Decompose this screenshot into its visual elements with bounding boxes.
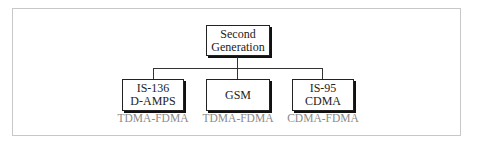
node-gsm: GSM [206,79,270,111]
access-label-2: TDMA-FDMA [193,112,283,124]
root-line-1: Second [220,28,255,41]
node-3-line-2: CDMA [305,95,341,108]
node-is-95-cdma: IS-95 CDMA [292,79,354,111]
root-line-2: Generation [211,41,264,54]
root-node-second-generation: Second Generation [206,25,270,56]
node-is-136-d-amps: IS-136 D-AMPS [122,79,184,111]
access-label-1: TDMA-FDMA [108,112,198,124]
access-label-3: CDMA-FDMA [278,112,368,124]
node-2-line-1: GSM [225,89,251,102]
node-1-line-2: D-AMPS [130,95,175,108]
connector-right-down [322,68,323,79]
connector-left-down [153,68,154,79]
connector-horizontal [153,68,323,69]
